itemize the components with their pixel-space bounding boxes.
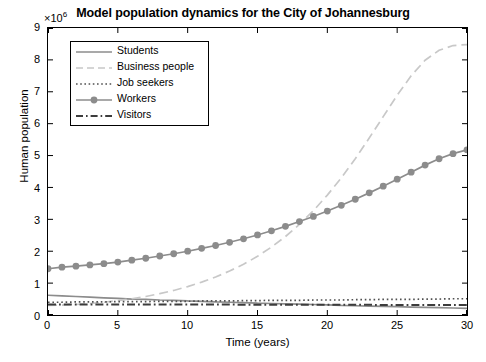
chart-legend: Students Business people Job seekers Wor… — [70, 41, 209, 126]
legend-swatch-students — [76, 44, 112, 56]
legend-item-business-people: Business people — [71, 58, 208, 74]
x-tick-label-10: 10 — [167, 319, 207, 331]
y-axis-exponent-label: ×106 — [44, 10, 67, 24]
legend-item-visitors: Visitors — [71, 106, 208, 122]
y-tick-label-4: 4 — [0, 182, 40, 194]
y-tick-label-9: 9 — [0, 21, 40, 33]
legend-label-business-people: Business people — [117, 60, 194, 72]
y-tick-label-6: 6 — [0, 117, 40, 129]
y-axis-label: Human population — [18, 46, 30, 226]
legend-item-job-seekers: Job seekers — [71, 74, 208, 90]
x-tick-label-25: 25 — [377, 319, 417, 331]
y-axis-exponent-power: 6 — [63, 10, 67, 19]
x-tick-label-20: 20 — [307, 319, 347, 331]
y-axis-exponent-base: 10 — [50, 12, 62, 24]
y-tick-label-1: 1 — [0, 278, 40, 290]
legend-item-workers: Workers — [71, 90, 208, 106]
y-tick-label-8: 8 — [0, 53, 40, 65]
legend-swatch-job-seekers — [76, 76, 112, 88]
legend-item-students: Students — [71, 42, 208, 58]
legend-swatch-business-people — [76, 60, 112, 72]
legend-label-students: Students — [117, 44, 158, 56]
y-tick-label-7: 7 — [0, 85, 40, 97]
legend-swatch-visitors — [76, 108, 112, 120]
y-tick-label-5: 5 — [0, 149, 40, 161]
chart-title: Model population dynamics for the City o… — [0, 6, 486, 20]
legend-label-visitors: Visitors — [117, 108, 151, 120]
chart-figure: Model population dynamics for the City o… — [0, 0, 486, 362]
legend-label-job-seekers: Job seekers — [117, 76, 174, 88]
legend-swatch-workers — [76, 92, 112, 104]
x-tick-label-30: 30 — [447, 319, 486, 331]
y-tick-label-3: 3 — [0, 214, 40, 226]
x-tick-label-5: 5 — [97, 319, 137, 331]
x-axis-label: Time (years) — [47, 336, 468, 348]
x-tick-label-15: 15 — [237, 319, 277, 331]
legend-label-workers: Workers — [117, 92, 156, 104]
x-tick-label-0: 0 — [27, 319, 67, 331]
y-tick-label-2: 2 — [0, 246, 40, 258]
